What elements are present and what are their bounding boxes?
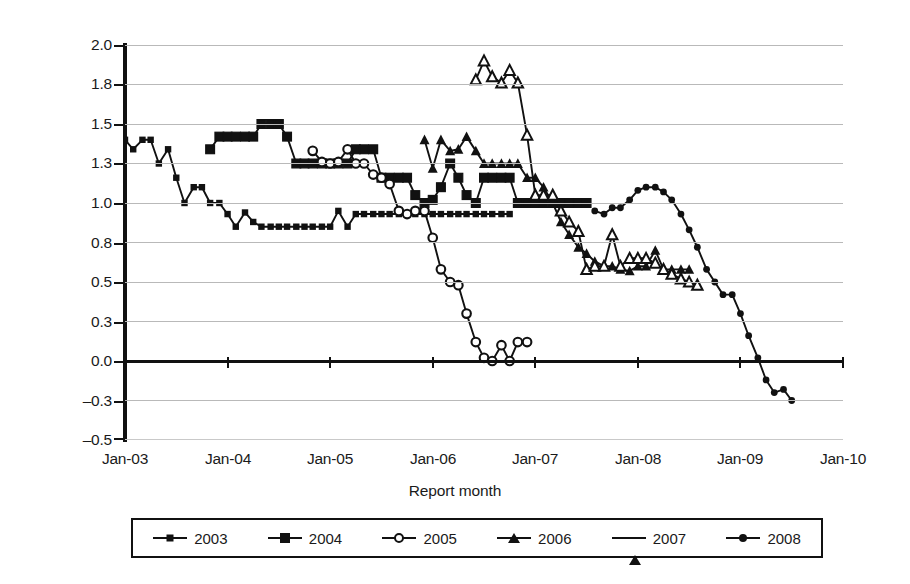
x-tick-label-7: Jan-10 [820,450,866,468]
x-tick-0 [124,357,126,368]
legend-label-2007: 2007 [653,530,686,547]
legend-item-2008[interactable]: 2008 [726,530,800,547]
x-tick-label-0: Jan-03 [102,450,148,468]
legend-label-2004: 2004 [309,530,342,547]
x-tick-5 [637,357,639,368]
x-tick-3 [432,357,434,368]
legend-marker-2006-icon [497,531,531,545]
x-tick-4 [534,357,536,368]
legend-marker-2005-icon [382,531,416,545]
legend-item-2005[interactable]: 2005 [382,530,456,547]
x-tick-label-4: Jan-07 [512,450,558,468]
legend-marker-2008-icon [726,531,760,545]
x-tick-label-6: Jan-09 [717,450,763,468]
x-tick-label-1: Jan-04 [205,450,251,468]
legend-label-2003: 2003 [194,530,227,547]
x-tick-label-5: Jan-08 [615,450,661,468]
legend-item-2006[interactable]: 2006 [497,530,571,547]
legend-marker-2003-icon [153,531,187,545]
legend-item-2007[interactable]: 2007 [612,530,686,547]
legend-item-2004[interactable]: 2004 [268,530,342,547]
x-tick-7 [842,357,844,368]
chart-legend: 2003 2004 2005 2006 2007 2008 [131,518,823,558]
x-tick-1 [227,357,229,368]
x-tick-2 [329,357,331,368]
legend-label-2006: 2006 [538,530,571,547]
legend-label-2005: 2005 [423,530,456,547]
legend-marker-2004-icon [268,531,302,545]
x-tick-label-3: Jan-06 [410,450,456,468]
legend-item-2003[interactable]: 2003 [153,530,227,547]
legend-label-2008: 2008 [767,530,800,547]
x-axis-title: Report month [0,482,910,500]
legend-marker-2007-icon [612,531,646,545]
x-tick-label-2: Jan-05 [307,450,353,468]
x-tick-6 [739,357,741,368]
chart-page: Million barrel/day 2.0 1.8 1.5 1.3 1.0 0… [0,0,910,584]
